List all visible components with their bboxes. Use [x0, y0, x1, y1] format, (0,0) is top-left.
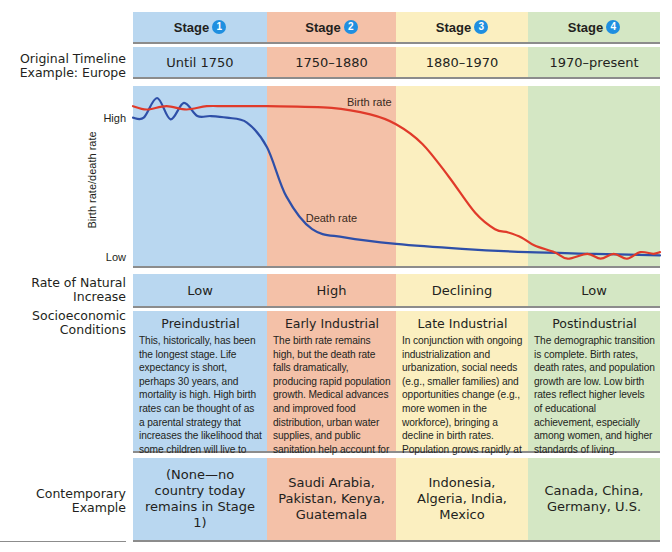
y-tick-high: High — [103, 112, 126, 124]
stage-2-number-badge: 2 — [344, 20, 358, 34]
y-axis-label: Birth rate/death rate — [86, 131, 98, 228]
bottom-divider — [0, 541, 126, 542]
natural-increase-row: Low High Declining Low — [133, 274, 660, 306]
timeline-row-label: Original Timeline Example: Europe — [0, 52, 126, 80]
contemporary-stage-1: (None—no country today remains in Stage … — [133, 458, 267, 540]
timeline-stage-1: Until 1750 — [133, 47, 267, 77]
death-rate-label: Death rate — [306, 212, 357, 224]
birth-rate-label: Birth rate — [347, 96, 392, 108]
stage-1-header: Stage1 — [133, 12, 267, 42]
contemporary-row: (None—no country today remains in Stage … — [133, 458, 660, 540]
socioeconomic-stage-2: Early Industrial The birth rate remains … — [267, 311, 396, 451]
socioeconomic-row-label: Socioeconomic Conditions — [0, 309, 126, 337]
socioeconomic-title: Preindustrial — [139, 316, 262, 331]
timeline-stage-3: 1880–1970 — [396, 47, 528, 77]
natural-increase-stage-4: Low — [528, 274, 660, 306]
socioeconomic-title: Early Industrial — [273, 316, 391, 331]
timeline-stage-4: 1970–present — [528, 47, 660, 77]
timeline-stage-2: 1750–1880 — [267, 47, 396, 77]
birth-death-rate-chart: HighLowBirth rate/death rateBirth rateDe… — [0, 84, 672, 269]
socioeconomic-stage-4: Postindustrial The demographic transitio… — [528, 311, 660, 451]
natural-increase-stage-1: Low — [133, 274, 267, 306]
natural-increase-stage-3: Declining — [396, 274, 528, 306]
natural-increase-stage-2: High — [267, 274, 396, 306]
socioeconomic-title: Postindustrial — [534, 316, 655, 331]
stage-4-number-badge: 4 — [606, 20, 620, 34]
stage-2-header: Stage2 — [267, 12, 396, 42]
socioeconomic-description: The demographic transition is complete. … — [534, 334, 655, 456]
contemporary-stage-3: Indonesia, Algeria, India, Mexico — [396, 458, 528, 540]
stage-3-number-badge: 3 — [474, 20, 488, 34]
stage-1-number-badge: 1 — [212, 20, 226, 34]
natural-increase-row-label: Rate of Natural Increase — [0, 276, 126, 304]
socioeconomic-stage-3: Late Industrial In conjunction with ongo… — [396, 311, 528, 451]
socioeconomic-description: In conjunction with ongoing industrializ… — [402, 334, 523, 470]
y-tick-low: Low — [106, 251, 126, 263]
contemporary-stage-2: Saudi Arabia, Pakistan, Kenya, Guatemala — [267, 458, 396, 540]
stage-header-row: Stage1 Stage2 Stage3 Stage4 — [133, 12, 660, 42]
stage-3-header: Stage3 — [396, 12, 528, 42]
contemporary-stage-4: Canada, China, Germany, U.S. — [528, 458, 660, 540]
socioeconomic-stage-1: Preindustrial This, historically, has be… — [133, 311, 267, 451]
chart-region-4 — [528, 86, 660, 266]
chart-x-axis — [133, 266, 660, 268]
chart-region-2 — [267, 86, 396, 266]
contemporary-row-label: Contemporary Example — [0, 487, 126, 515]
chart-region-3 — [396, 86, 528, 266]
chart-region-1 — [133, 86, 267, 266]
socioeconomic-title: Late Industrial — [402, 316, 523, 331]
stage-4-header: Stage4 — [528, 12, 660, 42]
socioeconomic-row: Preindustrial This, historically, has be… — [133, 311, 660, 451]
timeline-row: Until 1750 1750–1880 1880–1970 1970–pres… — [133, 47, 660, 77]
